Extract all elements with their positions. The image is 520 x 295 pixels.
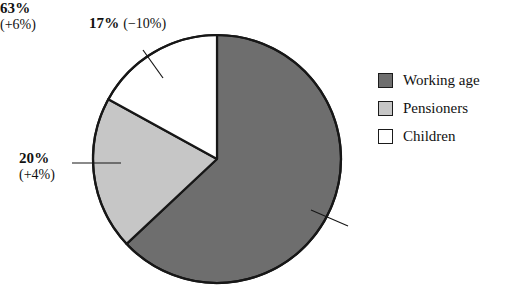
callout-pensioners-percent: 20% (19, 150, 55, 167)
chart-legend: Working age Pensioners Children (378, 66, 518, 150)
legend-item-children[interactable]: Children (378, 122, 518, 150)
callout-pensioners: 20% (+4%) (19, 150, 55, 182)
callout-children-percent: 17% (89, 15, 119, 31)
callout-working-age-delta: (+6%) (0, 17, 36, 33)
callout-working-age-percent: 63% (0, 0, 36, 17)
callout-working-age: 63% (+6%) (0, 0, 36, 32)
legend-item-pensioners[interactable]: Pensioners (378, 94, 518, 122)
legend-item-working-age[interactable]: Working age (378, 66, 518, 94)
callout-pensioners-delta: (+4%) (19, 167, 55, 183)
callout-children: 17% (−10%) (89, 14, 166, 32)
legend-swatch-children (378, 129, 393, 144)
legend-label-pensioners: Pensioners (403, 100, 468, 117)
legend-label-children: Children (403, 128, 456, 145)
legend-swatch-pensioners (378, 101, 393, 116)
pie-chart-figure: 17% (−10%) 20% (+4%) 63% (+6%) Working a… (0, 0, 520, 295)
callout-children-delta: (−10%) (123, 16, 166, 31)
legend-label-working-age: Working age (403, 72, 480, 89)
legend-swatch-working-age (378, 73, 393, 88)
